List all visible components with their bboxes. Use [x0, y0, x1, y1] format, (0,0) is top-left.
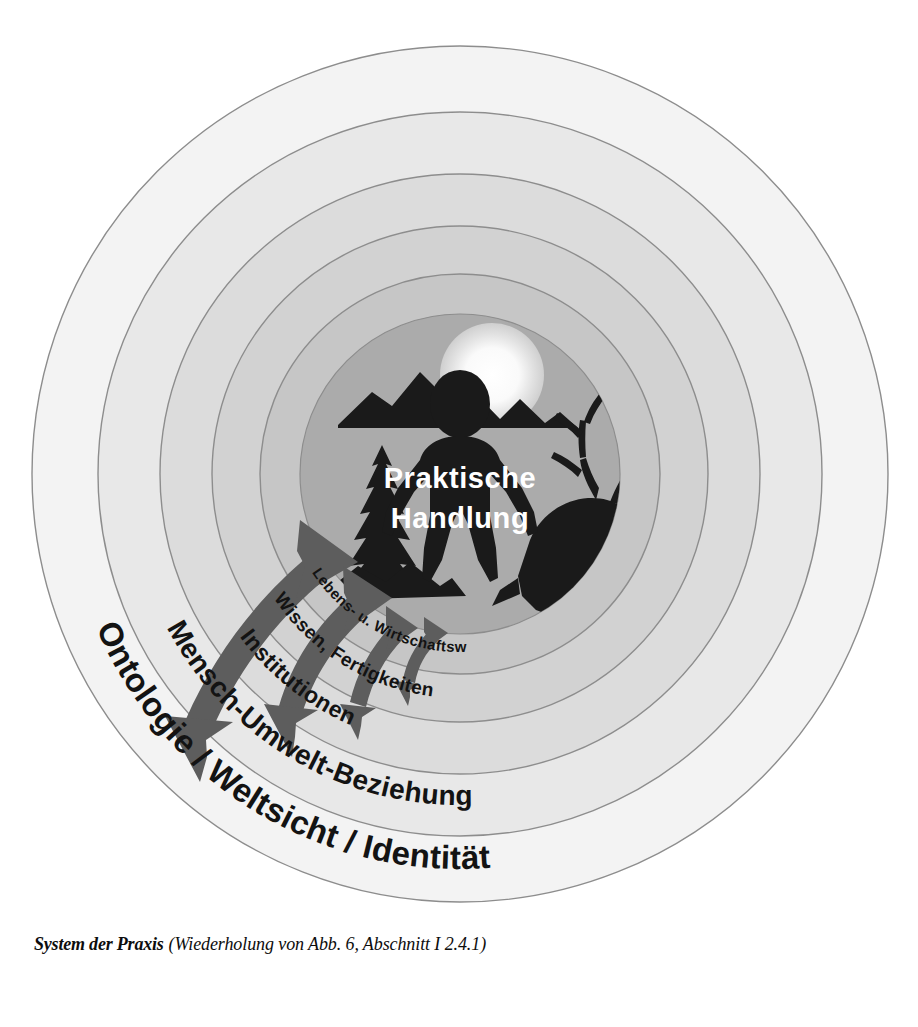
concentric-rings-diagram: Lebens- u. Wirtschaftsweise Wissen, Fert… — [0, 0, 918, 930]
figure-caption-note: (Wiederholung von Abb. 6, Abschnitt I 2.… — [168, 934, 486, 954]
figure-root: Lebens- u. Wirtschaftsweise Wissen, Fert… — [0, 0, 918, 1027]
figure-caption: System der Praxis (Wiederholung von Abb.… — [34, 932, 874, 957]
figure-caption-title: System der Praxis — [34, 934, 164, 954]
center-label-line-1: Praktische — [384, 462, 537, 494]
center-label-line-2: Handlung — [391, 502, 530, 534]
